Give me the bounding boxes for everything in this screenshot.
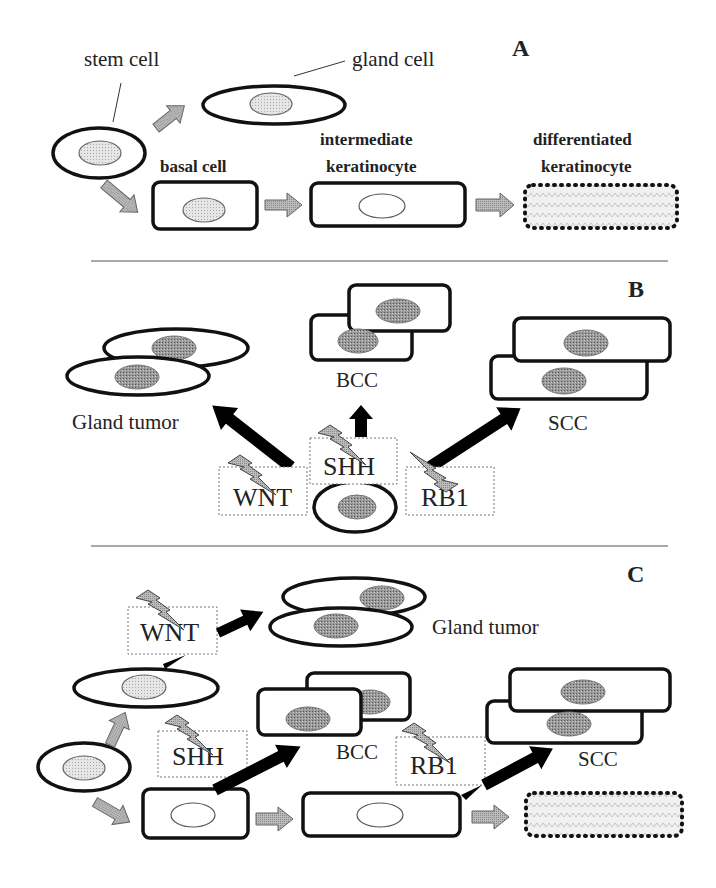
c-arrow-rb1-to-scc xyxy=(478,737,559,797)
differentiated-keratinocyte xyxy=(525,185,677,228)
panel-b: B Gland tumor BCC SCC WNT SHH xyxy=(67,276,670,532)
intermediate-label-line2: keratinocyte xyxy=(326,157,417,176)
c-arrow-intermediate-to-rb1-tail xyxy=(461,785,482,800)
c-rb1-label: RB1 xyxy=(410,751,458,780)
arrow-stem-to-basal xyxy=(97,176,145,221)
gland-tumor-label: Gland tumor xyxy=(72,410,179,434)
scc-label: SCC xyxy=(548,411,588,435)
c-arrow-intermediate-to-differentiated xyxy=(472,805,509,829)
gland-cell-label: gland cell xyxy=(352,47,434,71)
c-differentiated-keratinocyte xyxy=(526,793,682,836)
bcc-label: BCC xyxy=(336,368,378,392)
gland-tumor-nucleus-front xyxy=(115,365,159,389)
c-wnt-label: WNT xyxy=(140,618,199,647)
arrow-wnt-to-gland-tumor xyxy=(204,394,300,478)
c-gland-tumor-nucleus-back xyxy=(360,586,404,610)
intermediate-nucleus xyxy=(359,194,405,218)
c-scc-nucleus-front xyxy=(561,680,605,704)
c-scc-label: SCC xyxy=(578,747,618,771)
differentiated-label-line2: keratinocyte xyxy=(541,157,632,176)
panel-a: A stem cell gland cell basal cell interm… xyxy=(53,35,677,229)
tumor-origin-diagram: A stem cell gland cell basal cell interm… xyxy=(0,0,716,888)
shh-label: SHH xyxy=(323,452,375,481)
bcc-nucleus-back xyxy=(338,329,378,353)
panel-label-a: A xyxy=(512,35,530,61)
panel-label-c: C xyxy=(627,561,644,587)
bcc-nucleus-front xyxy=(376,299,420,323)
c-arrow-gland-to-wnt-tail xyxy=(163,655,186,669)
gland-cell-leader-line xyxy=(294,61,345,76)
arrow-basal-to-intermediate xyxy=(265,193,302,217)
basal-cell-nucleus xyxy=(183,198,225,222)
differentiated-label-line1: differentiated xyxy=(533,130,632,149)
c-arrow-stem-to-gland xyxy=(100,708,135,750)
scc-nucleus-back xyxy=(542,368,586,394)
c-arrow-stem-to-basal xyxy=(90,792,136,831)
scc-nucleus-front xyxy=(564,330,608,356)
c-scc-nucleus-back xyxy=(547,712,591,736)
c-gland-cell-nucleus xyxy=(122,675,166,699)
origin-stem-cell-nucleus xyxy=(338,495,376,519)
c-gland-tumor-label: Gland tumor xyxy=(432,615,539,639)
basal-cell-label: basal cell xyxy=(160,157,227,176)
c-intermediate-nucleus xyxy=(357,803,403,827)
stem-cell-leader-line xyxy=(113,83,121,122)
arrow-intermediate-to-differentiated xyxy=(476,193,514,217)
stem-cell-nucleus xyxy=(79,141,121,165)
c-arrow-basal-to-intermediate xyxy=(256,807,293,831)
c-arrow-wnt-to-gland-tumor xyxy=(213,601,268,644)
intermediate-label-line1: intermediate xyxy=(320,130,413,149)
c-stem-cell-nucleus xyxy=(63,756,105,780)
arrow-stem-to-gland xyxy=(149,97,191,137)
gland-cell-nucleus xyxy=(250,93,292,115)
arrow-shh-to-bcc xyxy=(349,405,373,437)
stem-cell-label: stem cell xyxy=(84,47,159,71)
c-gland-tumor-nucleus-front xyxy=(314,614,358,638)
c-basal-cell-nucleus xyxy=(171,803,215,827)
panel-c: C Gland tumor WNT SHH BCC xyxy=(38,561,682,838)
arrow-rb1-to-scc xyxy=(422,396,528,478)
panel-label-b: B xyxy=(628,276,644,302)
c-bcc-nucleus-front xyxy=(286,707,330,731)
c-bcc-label: BCC xyxy=(336,740,378,764)
